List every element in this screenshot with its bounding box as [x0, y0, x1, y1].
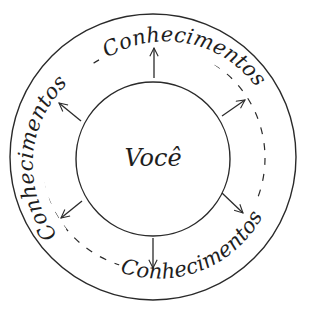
center-label: Você [124, 144, 181, 172]
diagram-canvas: Conhecimentos Conhecimentos Conhecimento… [0, 0, 311, 316]
knowledge-diagram: Conhecimentos Conhecimentos Conhecimento… [0, 0, 311, 316]
arrow-down-right-icon [222, 193, 243, 213]
arrow-up-right-icon [222, 100, 245, 116]
arrow-down-left-icon [61, 201, 82, 218]
arrow-up-left-icon [59, 103, 81, 121]
label-bottom: Conhecimentos [118, 206, 267, 284]
